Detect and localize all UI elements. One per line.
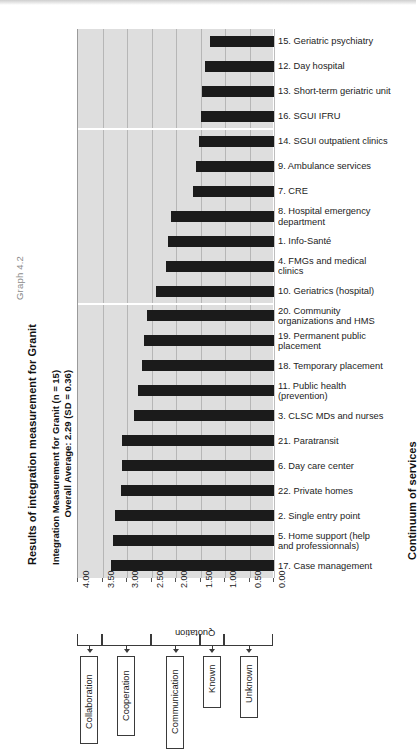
bar (168, 236, 274, 247)
chart-subtitle: Integration Measurement for Granit (n = … (50, 370, 74, 565)
category-label-line: 3. CLSC MDs and nurses (278, 411, 414, 421)
axis-tick-label: 1.00 (228, 570, 238, 588)
scale-band-box-cooperation: Cooperation (117, 656, 135, 736)
bar (201, 111, 275, 122)
category-label: 7. CRE (278, 186, 414, 196)
category-label-line: 12. Day hospital (278, 61, 414, 71)
category-label: 8. Hospital emergencydepartment (278, 206, 414, 227)
axis-tick (126, 578, 127, 582)
category-label-line: 5. Home support (help (278, 531, 414, 541)
axis-tick-label: 4.00 (81, 570, 91, 588)
bar (196, 161, 274, 172)
category-label: 17. Case management (278, 561, 414, 571)
scale-brackets (77, 634, 273, 650)
subtitle-line-2: Overall Average: 2.29 (SD = 0.36) (62, 370, 74, 565)
bar (199, 136, 274, 147)
category-label-line: 22. Private homes (278, 486, 414, 496)
scan-edge-artifact (0, 0, 416, 5)
axis-tick-label: 2.50 (155, 570, 165, 588)
category-label-line: 2. Single entry point (278, 511, 414, 521)
category-label: 18. Temporary placement (278, 361, 414, 371)
bar (144, 335, 274, 346)
subtitle-line-1: Integration Measurement for Granit (n = … (50, 370, 62, 565)
category-label-line: organizations and HMS (278, 316, 414, 326)
bar (156, 286, 274, 297)
category-label-line: placement (278, 341, 414, 351)
scale-band-label: Unknown (244, 664, 254, 703)
group-separator (78, 128, 273, 130)
bar (122, 435, 274, 446)
category-label-line: 21. Paratransit (278, 436, 414, 446)
bracket-unknown (224, 634, 273, 646)
category-label-line: 19. Permanent public (278, 331, 414, 341)
bar (210, 36, 274, 47)
bar (111, 560, 274, 571)
scale-band-box-known: Known (203, 656, 221, 708)
category-label-line: 18. Temporary placement (278, 361, 414, 371)
category-label: 22. Private homes (278, 486, 414, 496)
axis-tick (273, 578, 274, 582)
category-label-line: 7. CRE (278, 186, 414, 196)
axis-tick (224, 578, 225, 582)
scale-band-box-collaboration: Collaboration (80, 656, 98, 744)
category-label-line: 4. FMGs and medical (278, 256, 414, 266)
category-label: 12. Day hospital (278, 61, 414, 71)
axis-tick (77, 578, 78, 582)
bar (138, 385, 274, 396)
scale-band-label: Cooperation (121, 670, 131, 721)
category-label: 19. Permanent publicplacement (278, 331, 414, 352)
category-label: 21. Paratransit (278, 436, 414, 446)
category-label-line: 8. Hospital emergency (278, 206, 414, 216)
category-label: 20. Communityorganizations and HMS (278, 306, 414, 327)
bar (205, 61, 274, 72)
scale-band-label: Communication (170, 669, 180, 734)
bracket-cooperation (102, 634, 151, 646)
axis-tick-label: 3.00 (130, 570, 140, 588)
category-label: 14. SGUI outpatient clinics (278, 136, 414, 146)
category-label-line: 6. Day care center (278, 461, 414, 471)
bar (113, 535, 274, 546)
bar (122, 460, 274, 471)
category-label-line: 14. SGUI outpatient clinics (278, 136, 414, 146)
axis-tick-label: 3.50 (106, 570, 116, 588)
category-label-line: clinics (278, 266, 414, 276)
category-label-line: department (278, 217, 414, 227)
bar (147, 310, 274, 321)
page-title: Results of integration measurement for G… (26, 324, 40, 565)
category-label-line: 9. Ambulance services (278, 161, 414, 171)
axis-tick-label: 1.50 (204, 570, 214, 588)
category-label: 15. Geriatric psychiatry (278, 36, 414, 46)
category-label: 3. CLSC MDs and nurses (278, 411, 414, 421)
category-label-line: 17. Case management (278, 561, 414, 571)
category-label-line: 16. SGUI IFRU (278, 111, 414, 121)
bracket-collaboration (77, 634, 102, 646)
category-label-line: (prevention) (278, 391, 414, 401)
category-label: 16. SGUI IFRU (278, 111, 414, 121)
bracket-communication (151, 634, 200, 646)
bracket-known (200, 634, 225, 646)
category-label: 11. Public health(prevention) (278, 381, 414, 402)
axis-tick (151, 578, 152, 582)
bar (193, 186, 274, 197)
scale-band-label: Collaboration (84, 674, 94, 729)
gridline-0.00 (274, 29, 275, 578)
category-label: 5. Home support (helpand professionnals) (278, 531, 414, 552)
category-label-line: 1. Info-Santé (278, 236, 414, 246)
bar (115, 510, 274, 521)
category-label-line: 13. Short-term geriatric unit (278, 86, 414, 96)
category-label: 9. Ambulance services (278, 161, 414, 171)
graph-number: Graph 4.2 (14, 256, 26, 300)
axis-tick (175, 578, 176, 582)
category-label-line: and professionnals) (278, 541, 414, 551)
axis-tick-label: 0.00 (277, 570, 287, 588)
plot-area (77, 29, 273, 578)
category-label: 4. FMGs and medicalclinics (278, 256, 414, 277)
axis-tick-label: 0.50 (253, 570, 263, 588)
category-label-line: 15. Geriatric psychiatry (278, 36, 414, 46)
axis-tick (102, 578, 103, 582)
category-label: 2. Single entry point (278, 511, 414, 521)
bar (142, 360, 274, 371)
category-label: 6. Day care center (278, 461, 414, 471)
bar (121, 485, 274, 496)
